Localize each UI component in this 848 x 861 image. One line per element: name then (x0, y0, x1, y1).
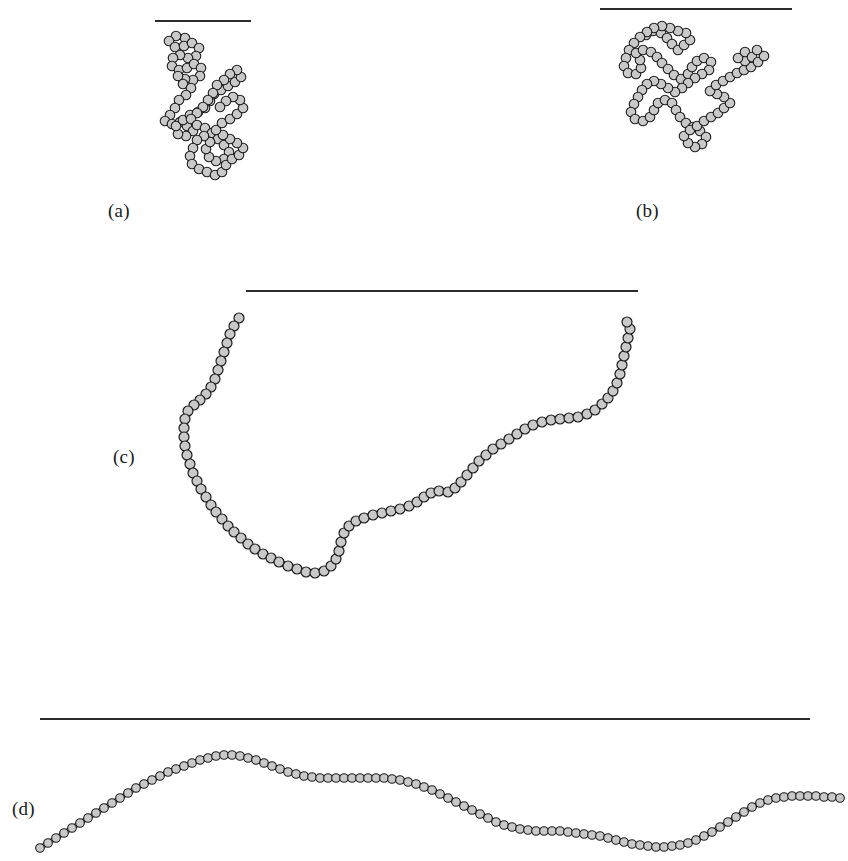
monomer-bead (181, 131, 191, 141)
monomer-bead (660, 843, 669, 852)
monomer-bead (759, 51, 769, 61)
polymer-chain-d (36, 751, 845, 853)
monomer-bead (520, 424, 530, 434)
monomer-bead (266, 553, 276, 563)
monomer-bead (649, 23, 659, 33)
monomer-bead (308, 773, 317, 782)
monomer-bead (443, 487, 453, 497)
monomer-bead (582, 409, 592, 419)
monomer-bead (468, 463, 478, 473)
monomer-bead (699, 116, 709, 126)
monomer-bead (671, 105, 681, 115)
monomer-bead (178, 115, 188, 125)
monomer-bead (622, 317, 632, 327)
monomer-bead (725, 98, 735, 108)
monomer-bead (508, 823, 517, 832)
monomer-bead (192, 135, 202, 145)
monomer-bead (662, 33, 672, 43)
monomer-bead (221, 160, 231, 170)
monomer-bead (198, 102, 208, 112)
monomer-bead (179, 41, 189, 51)
monomer-bead (692, 836, 701, 845)
monomer-bead (739, 65, 749, 75)
polymer-chain-figure: (a)(b)(c)(d) (0, 0, 848, 861)
monomer-bead (164, 36, 174, 46)
monomer-bead (230, 77, 240, 87)
monomer-bead (555, 414, 565, 424)
monomer-bead (608, 386, 618, 396)
monomer-bead (642, 79, 652, 89)
monomer-bead (688, 122, 698, 132)
monomer-bead (213, 365, 223, 375)
monomer-bead (620, 838, 629, 847)
monomer-bead (396, 776, 405, 785)
scale-bar-c (246, 290, 638, 292)
monomer-bead (183, 53, 193, 63)
monomer-bead (283, 561, 293, 571)
monomer-bead (188, 143, 198, 153)
monomer-bead (236, 752, 245, 761)
monomer-bead (100, 804, 109, 813)
monomer-bead (638, 45, 648, 55)
monomer-bead (649, 105, 659, 115)
monomer-bead (223, 521, 233, 531)
monomer-bead (173, 129, 183, 139)
monomer-bead (532, 827, 541, 836)
monomer-bead (663, 83, 673, 93)
monomer-bead (301, 567, 311, 577)
monomer-bead (180, 414, 190, 424)
monomer-bead (210, 374, 220, 384)
monomer-bead (183, 406, 193, 416)
monomer-bead (234, 313, 244, 323)
monomer-bead (836, 794, 845, 803)
monomer-bead (444, 794, 453, 803)
monomer-bead (167, 61, 177, 71)
monomer-bead (667, 39, 677, 49)
monomer-bead (820, 793, 829, 802)
monomer-bead (52, 834, 61, 843)
monomer-bead (212, 80, 222, 90)
monomer-bead (339, 528, 349, 538)
monomer-bead (412, 780, 421, 789)
monomer-bead (252, 756, 261, 765)
monomer-bead (225, 134, 235, 144)
monomer-bead (36, 844, 45, 853)
monomer-bead (229, 321, 239, 331)
monomer-bead (356, 774, 365, 783)
monomer-bead (476, 810, 485, 819)
monomer-bead (528, 420, 538, 430)
monomer-bead (193, 107, 203, 117)
monomer-bead (675, 112, 685, 122)
monomer-bead (218, 130, 228, 140)
monomer-bead (426, 488, 436, 498)
chain-backbone-fill-b (624, 26, 764, 147)
monomer-bead (212, 752, 221, 761)
monomer-bead (740, 56, 750, 66)
monomer-bead (76, 819, 85, 828)
monomer-bead (351, 516, 361, 526)
monomer-bead (173, 71, 183, 81)
monomer-bead (224, 147, 234, 157)
monomer-bead (701, 132, 711, 142)
monomer-bead (512, 429, 522, 439)
monomer-bead (179, 423, 189, 433)
monomer-bead (419, 492, 429, 502)
monomer-bead (202, 167, 212, 177)
monomer-bead (344, 521, 354, 531)
monomer-bead (705, 86, 715, 96)
monomer-bead (603, 393, 613, 403)
monomer-bead (199, 131, 209, 141)
monomer-bead (704, 65, 714, 75)
monomer-bead (713, 108, 723, 118)
monomer-bead (195, 71, 205, 81)
monomer-bead (708, 828, 717, 837)
monomer-bead (628, 840, 637, 849)
monomer-bead (258, 549, 268, 559)
monomer-bead (450, 483, 460, 493)
monomer-bead (649, 76, 659, 86)
monomer-bead (234, 150, 244, 160)
chain-backbone-b (624, 26, 764, 147)
monomer-bead (764, 796, 773, 805)
monomer-bead (232, 138, 242, 148)
monomer-bead (516, 825, 525, 834)
